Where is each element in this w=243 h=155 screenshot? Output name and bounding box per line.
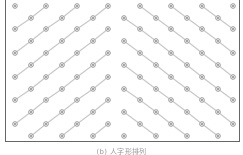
node-center-dot xyxy=(107,52,109,54)
connection-line xyxy=(187,65,202,77)
node-center-dot xyxy=(217,88,219,90)
node-center-dot xyxy=(30,88,32,90)
node-center-dot xyxy=(186,135,188,137)
node-center-dot xyxy=(14,76,16,78)
node-center-dot xyxy=(61,88,63,90)
connection-line xyxy=(187,112,202,124)
node-center-dot xyxy=(45,123,47,125)
connection-line xyxy=(140,29,156,41)
node-center-dot xyxy=(155,64,157,66)
node-center-dot xyxy=(76,5,78,7)
connection-line xyxy=(218,65,233,77)
connection-line xyxy=(187,18,202,29)
connection-line xyxy=(124,112,140,124)
node-center-dot xyxy=(123,40,125,42)
node-center-dot xyxy=(201,52,203,54)
node-center-dot xyxy=(139,123,141,125)
node-center-dot xyxy=(107,76,109,78)
connection-line xyxy=(15,41,31,53)
node-center-dot xyxy=(14,5,16,7)
connection-line xyxy=(77,41,93,53)
node-center-dot xyxy=(76,123,78,125)
connection-line xyxy=(187,89,202,100)
connection-line xyxy=(62,53,77,65)
connection-lines xyxy=(15,6,233,136)
connection-line xyxy=(187,41,202,53)
node-center-dot xyxy=(170,123,172,125)
connection-line xyxy=(31,29,46,41)
node-center-dot xyxy=(76,28,78,30)
node-center-dot xyxy=(30,17,32,19)
connection-line xyxy=(31,100,46,112)
connection-line xyxy=(77,112,93,124)
node-grid xyxy=(0,0,243,155)
node-center-dot xyxy=(123,111,125,113)
node-center-dot xyxy=(45,99,47,101)
node-center-dot xyxy=(45,52,47,54)
connection-line xyxy=(171,77,187,89)
connection-line xyxy=(93,77,108,89)
connection-line xyxy=(93,29,108,41)
node-center-dot xyxy=(107,5,109,7)
connection-line xyxy=(171,53,187,65)
node-center-dot xyxy=(186,88,188,90)
connection-line xyxy=(15,65,31,77)
connection-line xyxy=(156,65,171,77)
connection-line xyxy=(124,41,140,53)
connection-line xyxy=(202,77,218,89)
node-center-dot xyxy=(232,76,234,78)
connection-line xyxy=(202,100,218,112)
node-center-dot xyxy=(30,135,32,137)
node-center-dot xyxy=(186,64,188,66)
node-center-dot xyxy=(217,17,219,19)
connection-line xyxy=(171,100,187,112)
node-center-dot xyxy=(201,5,203,7)
connection-line xyxy=(202,6,218,18)
connection-line xyxy=(171,6,187,18)
connection-line xyxy=(140,77,156,89)
node-center-dot xyxy=(45,76,47,78)
node-center-dot xyxy=(76,99,78,101)
node-center-dot xyxy=(186,17,188,19)
node-center-dot xyxy=(14,52,16,54)
node-center-dot xyxy=(30,64,32,66)
node-center-dot xyxy=(170,99,172,101)
connection-line xyxy=(77,89,93,100)
connection-line xyxy=(46,18,62,29)
herringbone-diagram: (b) 人字形排列 xyxy=(0,0,243,155)
node-center-dot xyxy=(61,135,63,137)
node-center-dot xyxy=(201,123,203,125)
connection-line xyxy=(31,53,46,65)
connection-line xyxy=(93,53,108,65)
connection-line xyxy=(156,18,171,29)
node-center-dot xyxy=(201,28,203,30)
connection-line xyxy=(171,124,187,136)
node-center-dot xyxy=(186,111,188,113)
connection-line xyxy=(62,6,77,18)
node-center-dot xyxy=(139,5,141,7)
connection-line xyxy=(62,77,77,89)
node-center-dot xyxy=(170,76,172,78)
node-center-dot xyxy=(201,99,203,101)
figure-caption: (b) 人字形排列 xyxy=(0,146,243,155)
connection-line xyxy=(124,89,140,100)
connection-line xyxy=(15,112,31,124)
node-center-dot xyxy=(232,5,234,7)
connection-line xyxy=(62,100,77,112)
connection-line xyxy=(46,41,62,53)
nodes xyxy=(13,4,236,139)
connection-line xyxy=(77,18,93,29)
node-center-dot xyxy=(61,64,63,66)
connection-line xyxy=(93,100,108,112)
node-center-dot xyxy=(217,64,219,66)
node-center-dot xyxy=(186,40,188,42)
node-center-dot xyxy=(107,28,109,30)
connection-line xyxy=(140,53,156,65)
connection-line xyxy=(156,89,171,100)
node-center-dot xyxy=(155,111,157,113)
node-center-dot xyxy=(76,52,78,54)
connection-line xyxy=(140,100,156,112)
node-center-dot xyxy=(14,123,16,125)
node-center-dot xyxy=(139,28,141,30)
connection-line xyxy=(202,53,218,65)
